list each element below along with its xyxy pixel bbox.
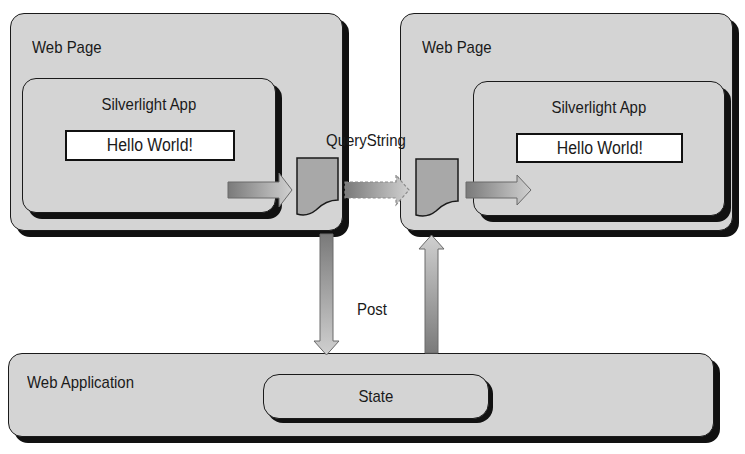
post-label: Post [357,300,387,320]
arrow-right-icon [466,175,531,205]
right-document-icon [416,159,458,216]
querystring-arrow-icon [345,175,409,205]
left-document-icon [297,158,338,215]
arrow-down-icon [314,234,339,355]
arrow-up-icon [419,235,444,353]
diagram-connectors [0,0,745,454]
arrow-right-icon [228,173,292,207]
querystring-label: QueryString [326,131,406,151]
